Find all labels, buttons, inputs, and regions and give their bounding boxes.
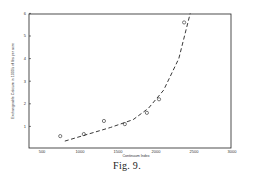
svg-text:4: 4 — [24, 56, 27, 61]
svg-text:500: 500 — [39, 149, 46, 154]
data-point — [157, 98, 160, 101]
svg-text:2: 2 — [24, 101, 27, 106]
data-point — [145, 111, 148, 114]
svg-text:1500: 1500 — [114, 149, 124, 154]
svg-text:3: 3 — [24, 79, 27, 84]
plot-frame — [29, 14, 231, 148]
svg-text:3000: 3000 — [228, 149, 238, 154]
svg-text:1000: 1000 — [76, 149, 86, 154]
data-point — [59, 135, 62, 138]
data-points — [59, 21, 186, 138]
svg-text:2500: 2500 — [190, 149, 200, 154]
y-axis-label: Exchangeable Calcium in 1000's of lbs pe… — [11, 43, 15, 119]
y-axis-ticks: 123456 — [24, 11, 31, 129]
svg-text:5: 5 — [24, 33, 27, 38]
x-axis-label: Continuum Index — [122, 154, 149, 158]
fitted-curve — [65, 13, 190, 141]
svg-text:1: 1 — [24, 124, 27, 129]
svg-text:6: 6 — [24, 11, 27, 16]
chart: 123456 50010001500200025003000 Continuum… — [0, 0, 254, 160]
data-point — [102, 119, 105, 122]
figure-caption: Fig. 9. — [0, 160, 254, 171]
svg-text:2000: 2000 — [152, 149, 162, 154]
x-axis-ticks: 50010001500200025003000 — [39, 149, 238, 154]
data-point — [123, 123, 126, 126]
data-point — [183, 21, 186, 24]
